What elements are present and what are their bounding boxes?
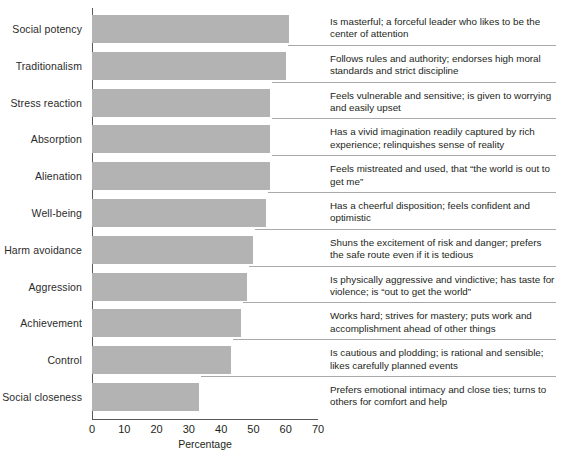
description-achievement: Works hard; strives for mastery; puts wo… [330, 310, 556, 335]
x-tick-label-40: 40 [209, 423, 233, 436]
row-separator [272, 82, 556, 83]
description-control: Is cautious and plodding; is rational an… [330, 347, 556, 372]
description-social-potency: Is masterful; a forceful leader who like… [330, 16, 556, 41]
row-separator [243, 302, 556, 303]
bar-aggression [92, 273, 247, 301]
bar-social-closeness [92, 383, 199, 411]
x-tick-label-30: 30 [177, 423, 201, 436]
x-tick-label-20: 20 [145, 423, 169, 436]
bar-absorption [92, 125, 270, 153]
row-separator [272, 155, 556, 156]
bar-control [92, 346, 231, 374]
description-stress-reaction: Feels vulnerable and sensitive; is given… [330, 90, 556, 115]
row-separator [249, 266, 556, 267]
bar-chart-figure: Social potencyTraditionalismStress react… [0, 0, 561, 457]
bar-alienation [92, 162, 270, 190]
x-tick-label-0: 0 [80, 423, 104, 436]
x-tick-label-50: 50 [241, 423, 265, 436]
description-traditionalism: Follows rules and authority; endorses hi… [330, 53, 556, 78]
x-tick-label-10: 10 [112, 423, 136, 436]
x-tick-label-70: 70 [306, 423, 330, 436]
description-aggression: Is physically aggressive and vindictive;… [330, 274, 556, 299]
bar-harm-avoidance [92, 236, 253, 264]
description-alienation: Feels mistreated and used, that “the wor… [330, 163, 556, 188]
x-tick-label-60: 60 [274, 423, 298, 436]
description-well-being: Has a cheerful disposition; feels confid… [330, 200, 556, 225]
row-separator [268, 192, 556, 193]
bar-achievement [92, 309, 241, 337]
row-separator [272, 118, 556, 119]
row-separator [233, 339, 556, 340]
row-separator [255, 229, 556, 230]
bar-traditionalism [92, 52, 286, 80]
row-separator [201, 376, 556, 377]
description-absorption: Has a vivid imagination readily captured… [330, 126, 556, 151]
row-separator [288, 45, 556, 46]
bar-social-potency [92, 15, 289, 43]
description-harm-avoidance: Shuns the excitement of risk and danger;… [330, 237, 556, 262]
x-axis-title: Percentage [92, 438, 318, 450]
x-axis-line [92, 419, 318, 420]
bar-well-being [92, 199, 266, 227]
description-social-closeness: Prefers emotional intimacy and close tie… [330, 384, 556, 409]
bar-stress-reaction [92, 89, 270, 117]
